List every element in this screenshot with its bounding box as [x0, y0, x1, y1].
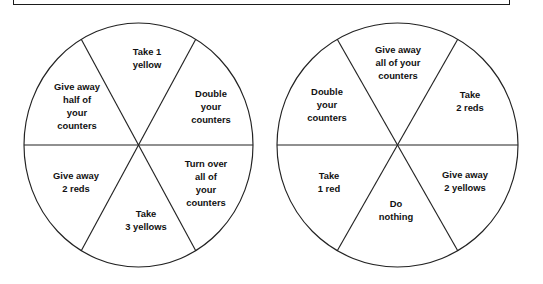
spinner-right-segment-upper-left-line-3: counters	[307, 112, 347, 123]
spinner-left-segment-upper-left-line-4: counters	[57, 120, 97, 131]
spinner-left-segment-top-line-1: Take 1	[133, 46, 162, 57]
spinner-left-segment-bottom-line-2: 3 yellows	[125, 221, 167, 232]
spinner-right-segment-top[interactable]: Give away all of your counters	[375, 44, 422, 81]
spinner-right-segment-top-line-1: Give away	[375, 44, 422, 55]
spinner-left-segment-upper-left-line-3: your	[67, 107, 88, 118]
spinner-right-segment-top-line-3: counters	[378, 70, 418, 81]
spinner-left[interactable]: Take 1 yellow Double your counters Turn …	[24, 23, 253, 267]
spinner-right-segment-upper-left-line-2: your	[317, 99, 338, 110]
spinner-right-segment-upper-right-line-1: Take	[460, 89, 481, 100]
spinner-left-segment-upper-left-line-1: Give away	[54, 81, 101, 92]
spinner-left-segment-lower-right-line-3: your	[196, 184, 217, 195]
spinner-left-segment-lower-right-line-2: all of	[195, 171, 218, 182]
spinner-right-segment-bottom-line-2: nothing	[379, 211, 414, 222]
spinner-right-segment-bottom-line-1: Do	[390, 198, 403, 209]
spinner-right-segment-lower-left-line-2: 1 red	[318, 183, 341, 194]
spinner-left-segment-upper-right-line-3: counters	[191, 114, 231, 125]
spinner-left-segment-upper-right-line-1: Double	[195, 88, 227, 99]
spinner-right-segment-lower-right-line-2: 2 yellows	[444, 182, 486, 193]
worksheet-page: Take 1 yellow Double your counters Turn …	[0, 0, 543, 284]
spinner-left-segment-upper-right-line-2: your	[201, 101, 222, 112]
spinner-right[interactable]: Give away all of your counters Take 2 re…	[277, 23, 518, 267]
spinner-left-segment-lower-left-line-1: Give away	[53, 170, 100, 181]
spinner-left-segment-upper-left-line-2: half of	[63, 94, 92, 105]
spinner-left-segment-bottom-line-1: Take	[136, 208, 157, 219]
spinner-right-segment-top-line-2: all of your	[376, 57, 421, 68]
spinners-drawing: Take 1 yellow Double your counters Turn …	[0, 0, 543, 284]
spinner-right-segment-upper-right-line-2: 2 reds	[456, 102, 484, 113]
spinner-left-segment-top-line-2: yellow	[133, 59, 162, 70]
spinner-right-segment-upper-left-line-1: Double	[311, 86, 343, 97]
spinner-left-segment-lower-left-line-2: 2 reds	[62, 183, 90, 194]
spinner-right-segment-lower-left-line-1: Take	[319, 170, 340, 181]
spinner-left-segment-lower-right-line-1: Turn over	[185, 158, 228, 169]
spinner-left-segment-lower-right-line-4: counters	[186, 197, 226, 208]
spinner-right-segment-lower-right-line-1: Give away	[442, 169, 489, 180]
